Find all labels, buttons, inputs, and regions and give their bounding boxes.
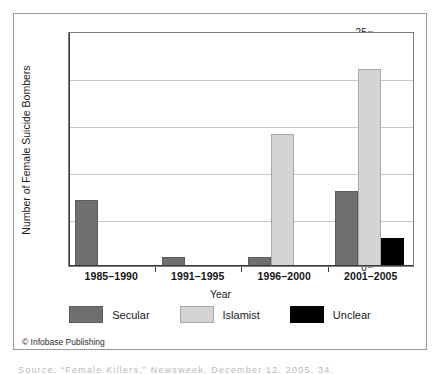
legend-label-islamist: Islamist (223, 309, 260, 321)
bar-islamist-3 (358, 69, 381, 266)
x-tick-mark (328, 267, 329, 272)
plot-area (68, 32, 414, 267)
x-tick-label: 1996–2000 (258, 270, 311, 282)
plot-area-wrapper (68, 32, 414, 267)
legend-label-secular: Secular (112, 309, 149, 321)
y-axis-title: Number of Female Suicide Bombers (20, 65, 32, 234)
x-tick-label: 2001–2005 (344, 270, 397, 282)
legend-item-islamist: Islamist (180, 306, 260, 323)
x-tick-label: 1991–1995 (171, 270, 224, 282)
y-axis-line (69, 33, 70, 266)
bar-islamist-2 (271, 134, 294, 266)
figure: Number of Female Suicide Bombers 0510152… (0, 0, 441, 374)
legend: Secular Islamist Unclear (13, 306, 427, 323)
source-note-text: Source: “Female Killers,” Newsweek, Dece… (18, 366, 423, 374)
legend-swatch-islamist (180, 306, 214, 323)
x-tick-mark (241, 267, 242, 272)
legend-label-unclear: Unclear (333, 309, 371, 321)
legend-swatch-secular (69, 306, 103, 323)
x-tick-label: 1985–1990 (85, 270, 138, 282)
x-tick-mark (155, 267, 156, 272)
source-note-clipped: Source: “Female Killers,” Newsweek, Dece… (18, 366, 423, 374)
x-axis-title: Year (0, 288, 441, 300)
bar-secular-0 (75, 200, 98, 266)
legend-item-secular: Secular (69, 306, 149, 323)
bar-unclear-3 (381, 238, 404, 266)
bar-secular-3 (335, 191, 358, 266)
legend-swatch-unclear (290, 306, 324, 323)
copyright-credit: © Infobase Publishing (22, 337, 105, 347)
x-axis-line (69, 265, 413, 266)
legend-item-unclear: Unclear (290, 306, 371, 323)
